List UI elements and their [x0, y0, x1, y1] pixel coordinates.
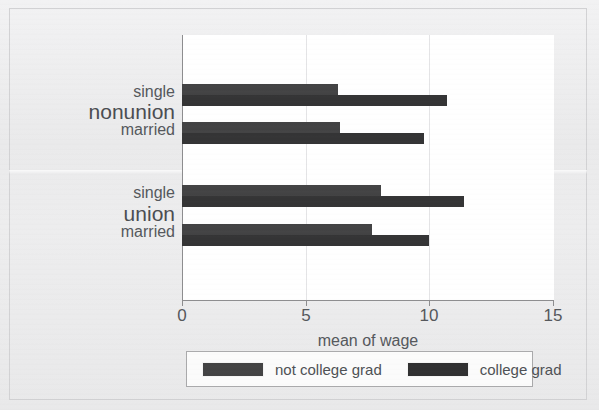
- plot-area: [182, 35, 554, 300]
- legend-label-college-grad: college grad: [480, 361, 562, 378]
- x-tick-label-5: 5: [286, 306, 326, 326]
- x-tick-label-10: 10: [409, 306, 449, 326]
- x-tick-label-0: 0: [162, 306, 202, 326]
- gridline-5: [306, 35, 307, 300]
- x-tick-label-15: 15: [533, 306, 573, 326]
- bar-nonunion-married-college-grad: [182, 133, 424, 144]
- bar-nonunion-single-not-college-grad: [182, 84, 338, 95]
- bar-union-single-not-college-grad: [182, 185, 381, 196]
- legend-entry-college-grad: college grad: [407, 361, 562, 378]
- category-label-nonunion-single: single: [133, 83, 175, 101]
- legend-swatch-not-college-grad: [202, 362, 264, 377]
- legend: not college grad college grad: [186, 351, 533, 387]
- legend-swatch-college-grad: [407, 362, 469, 377]
- legend-label-not-college-grad: not college grad: [275, 361, 382, 378]
- bar-nonunion-married-not-college-grad: [182, 122, 340, 133]
- group-label-nonunion: nonunion: [89, 100, 175, 124]
- x-axis-title: mean of wage: [182, 332, 554, 350]
- bar-union-single-college-grad: [182, 196, 464, 207]
- bar-chart: 0 5 10 15 mean of wage single married no…: [0, 0, 599, 410]
- bar-union-married-college-grad: [182, 235, 429, 246]
- bar-union-married-not-college-grad: [182, 224, 372, 235]
- category-label-union-single: single: [133, 184, 175, 202]
- group-label-union: union: [124, 202, 175, 226]
- gridline-10: [429, 35, 430, 300]
- legend-entry-not-college-grad: not college grad: [202, 361, 382, 378]
- x-axis-line: [182, 300, 554, 301]
- bar-nonunion-single-college-grad: [182, 95, 447, 106]
- y-axis-line: [182, 35, 183, 301]
